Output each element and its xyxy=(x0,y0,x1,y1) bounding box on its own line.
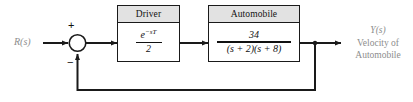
output-description-line-2: Automobile xyxy=(345,49,411,62)
minus-sign-label: − xyxy=(67,57,73,68)
driver-block-header: Driver xyxy=(118,6,179,23)
driver-denominator: 2 xyxy=(143,43,154,55)
driver-numerator: e−sT xyxy=(138,29,160,42)
plus-sign-label: + xyxy=(68,20,74,31)
automobile-numerator: 34 xyxy=(246,30,262,42)
output-description-line-1: Velocity of xyxy=(345,37,411,50)
block-diagram: R(s) + − Driver e−sT 2 Automobile 34 (s … xyxy=(0,0,413,102)
driver-block[interactable]: Driver e−sT 2 xyxy=(117,5,180,62)
automobile-block-body: 34 (s + 2)(s + 8) xyxy=(209,23,299,61)
driver-transfer-function: e−sT 2 xyxy=(136,29,162,54)
input-label: R(s) xyxy=(14,36,31,47)
automobile-transfer-function: 34 (s + 2)(s + 8) xyxy=(217,30,291,54)
output-label: Y(s) Velocity of Automobile xyxy=(345,24,411,62)
automobile-denominator: (s + 2)(s + 8) xyxy=(224,43,285,55)
automobile-block[interactable]: Automobile 34 (s + 2)(s + 8) xyxy=(208,5,300,62)
output-symbol: Y(s) xyxy=(345,24,411,37)
summing-junction-circle xyxy=(69,35,86,52)
driver-numerator-exponent: −sT xyxy=(145,28,156,36)
automobile-block-header: Automobile xyxy=(209,6,299,23)
driver-block-body: e−sT 2 xyxy=(118,23,179,61)
